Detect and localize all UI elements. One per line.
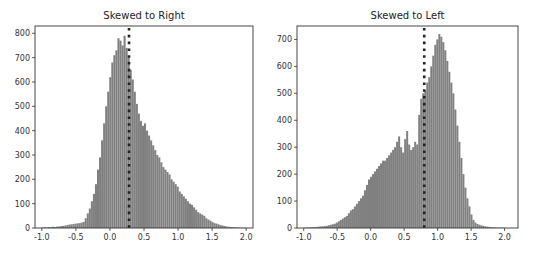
histogram-bar: [378, 166, 380, 228]
histogram-bar: [408, 145, 410, 228]
y-tick-label: 300: [277, 143, 292, 152]
histogram-bar: [368, 180, 370, 228]
histogram-bar: [126, 48, 128, 228]
histogram-bar: [356, 204, 358, 228]
histogram-bar: [103, 123, 105, 228]
histogram-bar: [394, 147, 396, 228]
histogram-bar: [75, 224, 77, 228]
histogram-bar: [93, 194, 95, 228]
histogram-bar: [462, 174, 464, 228]
histogram-bar: [183, 196, 185, 228]
histogram-bar: [340, 220, 342, 228]
histogram-bar: [187, 201, 189, 228]
histogram-bar: [164, 170, 166, 228]
histogram-bar: [438, 34, 440, 228]
histogram-bar: [79, 223, 81, 228]
histogram-bar: [70, 224, 72, 228]
histogram-bar: [85, 218, 87, 228]
histogram-bar: [162, 167, 164, 228]
y-tick-label: 0: [287, 224, 292, 233]
histogram-bar: [440, 37, 442, 228]
histogram-bar: [166, 172, 168, 228]
histogram-bar: [173, 182, 175, 228]
y-tick-label: 200: [15, 175, 30, 184]
histogram-bar: [199, 213, 201, 228]
histogram-bar: [132, 80, 134, 228]
histogram-bar: [179, 191, 181, 228]
histogram-bar: [152, 145, 154, 228]
histogram-bar: [142, 126, 144, 228]
histogram-bar: [366, 185, 368, 228]
x-tick-label: 0.0: [104, 233, 117, 242]
histogram-bar: [474, 223, 476, 228]
y-tick-label: 500: [277, 89, 292, 98]
histogram-bar: [348, 213, 350, 228]
histogram-bar: [360, 198, 362, 228]
y-tick-label: 300: [15, 151, 30, 160]
histogram-bar: [406, 131, 408, 228]
x-tick-label: 1.0: [172, 233, 185, 242]
histogram-bar: [446, 61, 448, 228]
y-tick-label: 700: [277, 35, 292, 44]
histogram-bar: [113, 55, 115, 228]
x-tick-label: 2.0: [240, 233, 253, 242]
histogram-bar: [468, 206, 470, 228]
histogram-bar: [169, 174, 171, 228]
histogram-bar: [158, 157, 160, 228]
histogram-bar: [205, 218, 207, 228]
histogram-bar: [332, 224, 334, 228]
histogram-bar: [404, 139, 406, 228]
histogram-skewed-right: Skewed to Right-1.0-0.50.00.51.01.52.001…: [0, 0, 268, 253]
histogram-bar: [350, 210, 352, 228]
histogram-bar: [213, 223, 215, 228]
histogram-bar: [362, 196, 364, 228]
histogram-bar: [209, 221, 211, 228]
histogram-bar: [105, 106, 107, 228]
histogram-bar: [115, 50, 117, 228]
histogram-bar: [466, 198, 468, 228]
histogram-bar: [346, 216, 348, 228]
histogram-bar: [148, 136, 150, 228]
histogram-bar: [444, 50, 446, 228]
histogram-bar: [160, 162, 162, 228]
histogram-bar: [334, 224, 336, 228]
histogram-bar: [342, 219, 344, 228]
histogram-bar: [122, 45, 124, 228]
histogram-bar: [146, 131, 148, 228]
histogram-bar: [352, 209, 354, 228]
histogram-bar: [410, 150, 412, 228]
histogram-bar: [138, 114, 140, 228]
histogram-bar: [416, 145, 418, 228]
histogram-bar: [77, 223, 79, 228]
y-tick-label: 0: [25, 224, 30, 233]
histogram-bar: [130, 70, 132, 228]
histogram-bar: [216, 224, 218, 228]
histogram-bar: [426, 83, 428, 228]
histogram-bar: [390, 153, 392, 228]
y-tick-label: 700: [15, 54, 30, 63]
histogram-bar: [450, 83, 452, 228]
x-tick-label: -0.5: [68, 233, 84, 242]
histogram-bar: [448, 72, 450, 228]
histogram-bar: [330, 225, 332, 228]
histogram-bar: [460, 158, 462, 228]
histogram-bar: [117, 38, 119, 228]
histogram-bar: [195, 210, 197, 228]
histogram-bar: [454, 109, 456, 228]
histogram-bar: [197, 212, 199, 228]
histogram-bar: [382, 161, 384, 228]
histogram-bar: [144, 123, 146, 228]
histogram-bar: [472, 220, 474, 228]
histogram-bar: [370, 177, 372, 228]
histogram-bar: [140, 121, 142, 228]
histogram-bar: [99, 157, 101, 228]
y-tick-label: 400: [15, 127, 30, 136]
x-tick-label: 1.5: [465, 233, 478, 242]
histogram-bar: [171, 179, 173, 228]
histogram-bar: [414, 142, 416, 228]
y-tick-label: 200: [277, 170, 292, 179]
x-tick-label: -1.0: [34, 233, 50, 242]
histogram-bar: [392, 150, 394, 228]
histogram-bar: [388, 155, 390, 228]
histogram-bar: [374, 171, 376, 228]
